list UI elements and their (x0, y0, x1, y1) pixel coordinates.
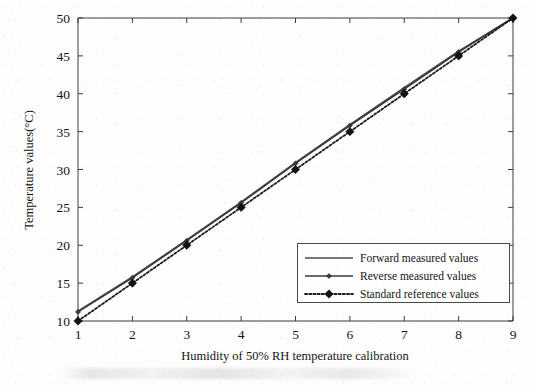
x-tick-label: 6 (347, 327, 354, 342)
y-tick-label: 20 (57, 238, 71, 253)
x-tick-label: 4 (238, 327, 245, 342)
y-tick-label: 35 (57, 125, 71, 140)
y-tick-label: 50 (57, 11, 71, 26)
x-tick-label: 9 (510, 327, 517, 342)
y-tick-label: 30 (57, 163, 71, 178)
y-tick-label: 40 (57, 87, 71, 102)
legend-item-label: Forward measured values (360, 252, 479, 264)
legend[interactable]: Forward measured valuesReverse measured … (298, 244, 510, 303)
legend-item-label: Reverse measured values (360, 270, 477, 282)
y-axis-title: Temperature values(°C) (22, 110, 36, 230)
figure-canvas: 123456789 101520253035404550 Humidity of… (0, 0, 535, 386)
x-tick-label: 2 (129, 327, 136, 342)
x-tick-label: 5 (292, 327, 299, 342)
y-tick-label: 15 (57, 276, 71, 291)
y-tick-label: 10 (57, 314, 71, 329)
y-axis-tick-labels: 101520253035404550 (57, 11, 71, 329)
legend-item-label: Standard reference values (360, 288, 479, 300)
temperature-calibration-line-chart: 123456789 101520253035404550 Humidity of… (0, 0, 535, 386)
x-tick-label: 1 (75, 327, 82, 342)
y-tick-label: 25 (57, 200, 71, 215)
y-tick-label: 45 (57, 49, 71, 64)
x-tick-label: 7 (401, 327, 408, 342)
x-axis-title: Humidity of 50% RH temperature calibrati… (181, 349, 409, 363)
x-tick-label: 3 (183, 327, 190, 342)
x-tick-label: 8 (455, 327, 462, 342)
